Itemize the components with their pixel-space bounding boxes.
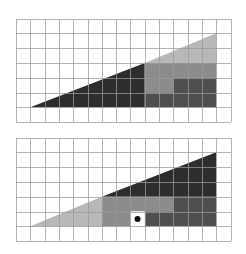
missing-square-dot <box>135 216 141 222</box>
top-arrangement-panel <box>16 19 232 123</box>
bottom-arrangement-panel <box>16 138 232 242</box>
missing-square-diagram <box>0 0 246 254</box>
